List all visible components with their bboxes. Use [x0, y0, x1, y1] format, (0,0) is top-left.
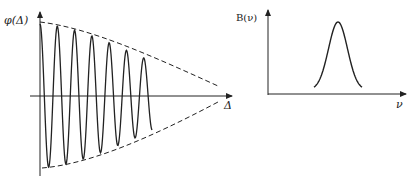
spectrum-plot: [268, 10, 406, 95]
left-y-axis-label: φ(Δ): [4, 14, 28, 27]
spectral-line: [314, 22, 362, 87]
interferogram-plot: [30, 12, 232, 176]
right-y-axis-label: B(ν): [236, 12, 257, 23]
figure-canvas: [0, 0, 414, 186]
left-x-axis-label: Δ: [224, 99, 232, 112]
right-x-axis-label: ν: [396, 98, 403, 111]
